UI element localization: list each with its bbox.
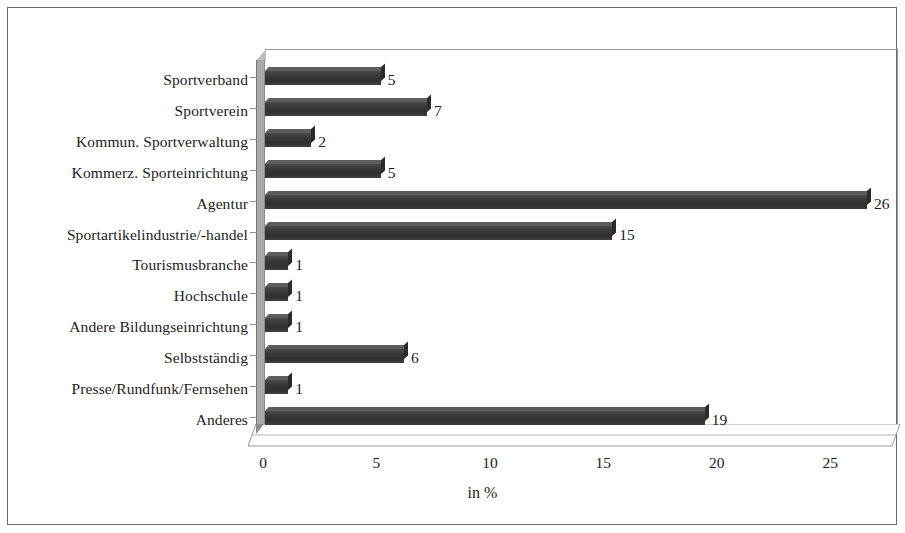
y-axis-tick [250, 386, 257, 387]
bar [265, 380, 288, 394]
plot-area: Sportverband5Sportverein7Kommun. Sportve… [0, 0, 905, 533]
bar-value-label: 7 [434, 103, 442, 119]
plot-right-border [897, 49, 898, 426]
y-axis-tick [250, 170, 257, 171]
bar [265, 318, 288, 332]
category-label: Agentur [197, 196, 249, 212]
bar [265, 411, 705, 425]
x-tick-label: 5 [356, 455, 396, 471]
axis-wall [256, 60, 265, 425]
y-axis-tick [250, 232, 257, 233]
bar [265, 287, 288, 301]
bar-value-label: 6 [411, 350, 419, 366]
category-label: Andere Bildungseinrichtung [69, 319, 248, 335]
y-axis-tick [250, 417, 257, 418]
bar [265, 164, 381, 178]
category-label: Sportverband [163, 72, 248, 88]
bar-value-label: 1 [295, 257, 303, 273]
bar-value-label: 1 [295, 319, 303, 335]
y-axis-tick [250, 108, 257, 109]
x-tick-label: 15 [583, 455, 623, 471]
bar [265, 256, 288, 270]
x-axis-title: in % [0, 484, 905, 502]
bar-value-label: 5 [388, 165, 396, 181]
bar-value-label: 15 [619, 227, 635, 243]
x-tick-label: 0 [243, 455, 283, 471]
category-label: Sportverein [175, 103, 248, 119]
category-label: Selbstständig [164, 350, 248, 366]
y-axis-tick [250, 262, 257, 263]
y-axis-tick [250, 293, 257, 294]
y-axis-tick [250, 355, 257, 356]
x-tick-label: 20 [697, 455, 737, 471]
bar [265, 71, 381, 85]
x-tick-label: 25 [810, 455, 850, 471]
category-label: Sportartikelindustrie/-handel [67, 227, 248, 243]
bar-value-label: 5 [388, 72, 396, 88]
y-axis-tick [250, 324, 257, 325]
category-label: Presse/Rundfunk/Fernsehen [72, 381, 248, 397]
category-label: Hochschule [174, 288, 248, 304]
bar-value-label: 19 [712, 412, 728, 428]
bar [265, 133, 311, 147]
category-label: Kommun. Sportverwaltung [76, 134, 248, 150]
bar [265, 226, 612, 240]
y-axis-tick [250, 201, 257, 202]
category-label: Kommerz. Sporteinrichtung [72, 165, 248, 181]
bar-value-label: 26 [874, 196, 890, 212]
bar-value-label: 1 [295, 381, 303, 397]
axis-floor [248, 424, 900, 458]
bar [265, 349, 404, 363]
category-label: Tourismusbranche [132, 257, 248, 273]
y-axis-tick [250, 77, 257, 78]
y-axis-tick [250, 139, 257, 140]
category-label: Anderes [196, 412, 248, 428]
bar [265, 102, 427, 116]
bar-value-label: 1 [295, 288, 303, 304]
chart-figure: Sportverband5Sportverein7Kommun. Sportve… [0, 0, 905, 533]
bar-value-label: 2 [318, 134, 326, 150]
plot-top-border [265, 49, 898, 50]
x-tick-label: 10 [470, 455, 510, 471]
bar [265, 195, 867, 209]
